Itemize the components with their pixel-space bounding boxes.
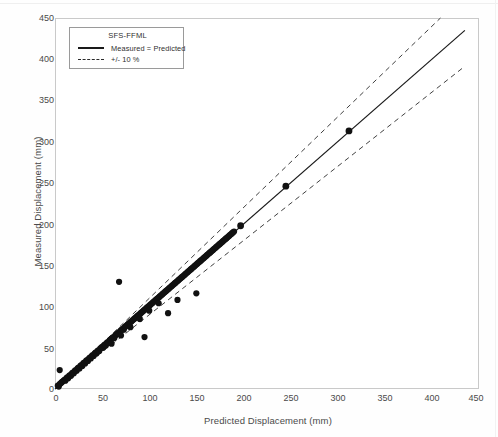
data-point-markers [55,128,353,390]
dashed-line-swatch-icon [76,55,106,63]
x-tick-label: 100 [130,394,170,403]
scatter-chart-figure: Measured Displacement (mm) 450 400 350 3… [0,0,498,437]
legend-title: SFS-FFML [77,31,178,40]
y-tick-label: 250 [14,179,54,188]
y-tick-label: 300 [14,138,54,147]
x-tick-label: 0 [36,394,76,403]
y-axis-title: Measured Displacement (mm) [32,87,43,317]
y-tick-label: 350 [14,96,54,105]
x-tick-label: 50 [83,394,123,403]
legend-item-label: Measured = Predicted [111,44,186,53]
y-tick-label: 400 [14,55,54,64]
x-tick-label: 200 [224,394,264,403]
scan-artifact-right-edge [495,0,496,437]
y-tick-label: 0 [14,385,54,394]
y-tick-label: 50 [14,345,54,354]
legend-item-measured-equals-predicted: Measured = Predicted [76,43,178,54]
plot-canvas [55,18,479,389]
x-tick-label: 450 [456,394,496,403]
legend-item-label: +/- 10 % [111,55,140,64]
y-tick-label: 100 [14,303,54,312]
x-tick-label: 350 [365,394,405,403]
chart-legend: SFS-FFML Measured = Predicted +/- 10 % [69,27,184,69]
y-tick-label: 150 [14,262,54,271]
scan-artifact-top-edge [0,3,498,4]
x-tick-label: 150 [177,394,217,403]
y-tick-label: 200 [14,221,54,230]
x-tick-label: 300 [318,394,358,403]
x-tick-label: 400 [412,394,452,403]
x-tick-label: 250 [271,394,311,403]
x-axis-title: Predicted Displacement (mm) [56,415,480,426]
solid-line-swatch-icon [76,44,106,52]
legend-item-plus-minus-ten-percent: +/- 10 % [76,54,178,65]
y-tick-label: 450 [14,14,54,23]
